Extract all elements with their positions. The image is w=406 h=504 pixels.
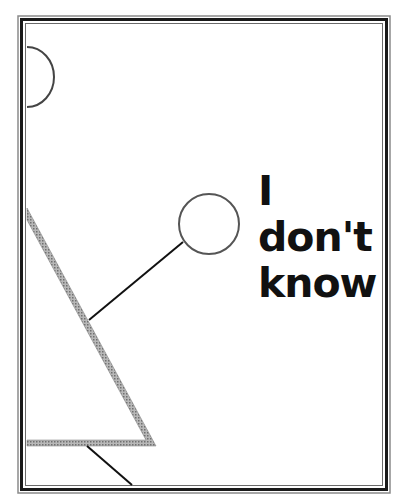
half-circle-shape (27, 47, 54, 107)
caption-line-1: I don't (258, 168, 378, 260)
pointer-line (89, 242, 183, 320)
bottom-line (87, 446, 132, 485)
circle-shape (179, 194, 239, 254)
caption-line-2: know (258, 260, 378, 306)
caption-text: I don't know (258, 168, 378, 306)
triangle-shape (27, 208, 156, 446)
